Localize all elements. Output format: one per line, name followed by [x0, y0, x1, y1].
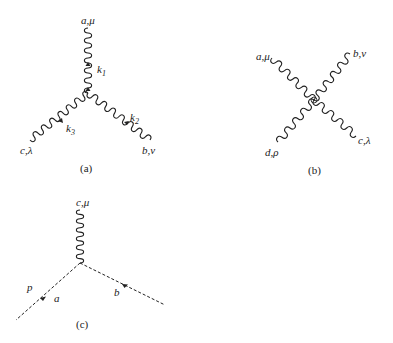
label-b-nu: b,ν	[142, 144, 155, 156]
label-k1: k1	[97, 63, 106, 78]
gluon-line	[87, 93, 151, 140]
label-a: a	[54, 292, 60, 304]
gluon-line	[277, 99, 314, 142]
ghost-line-left	[16, 263, 80, 320]
gluon-line	[271, 58, 315, 100]
diagram-c-ghost-gluon-vertex: c,μ p a b (c)	[16, 196, 165, 331]
gluon-line	[314, 53, 350, 101]
gluon-line	[76, 210, 83, 263]
label-k2: k2	[130, 111, 139, 126]
label-b: b	[114, 286, 120, 298]
gluon-lines	[30, 28, 151, 142]
caption-c: (c)	[76, 318, 89, 331]
gluon-line	[30, 91, 88, 141]
diagram-a-three-gluon-vertex: a,μ k1 k2 k3 c,λ b,ν (a)	[20, 14, 155, 175]
label-b-nu: b,ν	[353, 47, 366, 59]
gluon-lines	[271, 53, 356, 142]
gluon-line	[313, 100, 356, 137]
label-p: p	[26, 281, 33, 293]
label-c-lambda: c,λ	[20, 144, 33, 156]
label-k3: k3	[66, 122, 75, 137]
gluon-line	[84, 28, 91, 93]
label-a-mu: a,μ	[81, 14, 95, 26]
label-d-rho: d,ρ	[265, 146, 279, 158]
caption-a: (a)	[80, 162, 93, 175]
caption-b: (b)	[308, 164, 321, 177]
ghost-line-right	[80, 263, 165, 305]
label-a-mu: a,μ	[256, 50, 270, 62]
diagram-b-four-gluon-vertex: a,μ b,ν c,λ d,ρ (b)	[256, 47, 371, 177]
label-c-mu: c,μ	[76, 196, 90, 208]
label-c-lambda: c,λ	[358, 134, 371, 146]
gluon-line	[76, 210, 83, 263]
